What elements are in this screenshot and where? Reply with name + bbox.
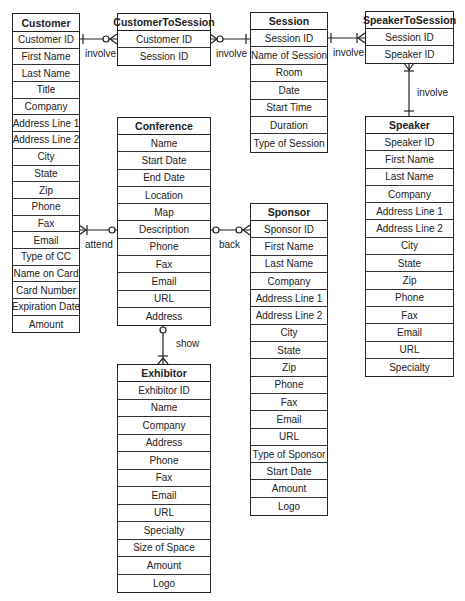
entity-field: Type of CC <box>13 249 79 266</box>
entity-conference: ConferenceNameStart DateEnd DateLocation… <box>117 117 211 326</box>
entity-title: Conference <box>118 118 210 135</box>
entity-field: Last Name <box>251 256 327 273</box>
entity-title: CustomerToSession <box>118 14 210 31</box>
entity-field: Logo <box>251 498 327 515</box>
entity-field: Logo <box>118 575 210 593</box>
entity-field: Fax <box>13 216 79 233</box>
entity-field: Zip <box>13 182 79 199</box>
relationship-label-back: back <box>219 239 240 250</box>
entity-field: Address <box>118 308 210 325</box>
entity-field: Company <box>366 186 453 203</box>
entity-field: First Name <box>13 49 79 66</box>
entity-customer-to-session: CustomerToSessionCustomer IDSession ID <box>117 13 211 66</box>
entity-exhibitor: ExhibitorExhibitor IDNameCompanyAddressP… <box>117 364 211 593</box>
entity-field: Phone <box>13 199 79 216</box>
entity-field: Zip <box>366 272 453 289</box>
entity-field: Map <box>118 204 210 221</box>
entity-field: Zip <box>251 359 327 376</box>
entity-customer: CustomerCustomer IDFirst NameLast NameTi… <box>12 13 80 333</box>
entity-field: Session ID <box>251 30 327 47</box>
entity-field: Amount <box>118 557 210 575</box>
entity-field: Address Line 1 <box>13 115 79 132</box>
entity-field: Session ID <box>366 29 453 46</box>
entity-field: Exhibitor ID <box>118 382 210 400</box>
entity-field: Customer ID <box>118 31 210 48</box>
entity-field: Fax <box>366 307 453 324</box>
entity-field: URL <box>366 342 453 359</box>
entity-session: SessionSession IDName of SessionRoomDate… <box>250 12 328 153</box>
entity-field: Expiration Date <box>13 299 79 316</box>
entity-field: Address Line 1 <box>366 203 453 220</box>
relationship-label-session-speakertosession: involve <box>333 47 364 58</box>
entity-field: Name on Card <box>13 266 79 283</box>
entity-title: Sponsor <box>251 204 327 221</box>
entity-field: Specialty <box>118 522 210 540</box>
entity-field: Customer ID <box>13 32 79 49</box>
entity-field: Start Date <box>118 152 210 169</box>
entity-field: Email <box>118 273 210 290</box>
entity-field: Address Line 2 <box>251 307 327 324</box>
entity-field: City <box>251 325 327 342</box>
entity-speaker: SpeakerSpeaker IDFirst NameLast NameComp… <box>365 116 454 377</box>
entity-field: Start Date <box>251 463 327 480</box>
entity-field: Card Number <box>13 282 79 299</box>
entity-field: Name <box>118 400 210 418</box>
entity-field: URL <box>118 291 210 308</box>
relationship-label-speakertosession-speaker: involve <box>417 87 448 98</box>
relationship-label-show: show <box>176 338 199 349</box>
entity-field: Start Time <box>251 100 327 117</box>
entity-field: State <box>251 342 327 359</box>
entity-field: Type of Sponsor <box>251 446 327 463</box>
entity-field: Company <box>118 417 210 435</box>
entity-field: Speaker ID <box>366 134 453 151</box>
entity-field: Duration <box>251 117 327 134</box>
entity-field: First Name <box>366 151 453 168</box>
entity-field: Email <box>118 487 210 505</box>
entity-field: Date <box>251 82 327 99</box>
entity-field: City <box>366 238 453 255</box>
entity-field: Fax <box>251 394 327 411</box>
entity-field: Type of Session <box>251 134 327 151</box>
entity-field: State <box>366 255 453 272</box>
entity-title: Speaker <box>366 117 453 134</box>
entity-field: Title <box>13 82 79 99</box>
entity-field: URL <box>118 505 210 523</box>
entity-field: Phone <box>118 239 210 256</box>
entity-field: Amount <box>251 480 327 497</box>
entity-field: Last Name <box>366 169 453 186</box>
entity-field: Last Name <box>13 65 79 82</box>
entity-field: Fax <box>118 256 210 273</box>
entity-field: Email <box>13 232 79 249</box>
entity-field: Address Line 2 <box>366 220 453 237</box>
entity-field: End Date <box>118 170 210 187</box>
relationship-label-attend: attend <box>85 239 113 250</box>
entity-field: Sponsor ID <box>251 221 327 238</box>
entity-field: Name <box>118 135 210 152</box>
entity-field: State <box>13 166 79 183</box>
entity-field: First Name <box>251 238 327 255</box>
entity-field: Specialty <box>366 359 453 376</box>
entity-title: SpeakerToSession <box>366 12 453 29</box>
relationship-label-customer-customertosession: involve <box>85 48 116 59</box>
entity-field: Speaker ID <box>366 46 453 63</box>
entity-title: Customer <box>13 14 79 32</box>
entity-field: Email <box>366 324 453 341</box>
entity-speaker-to-session: SpeakerToSessionSession IDSpeaker ID <box>365 11 454 64</box>
entity-field: Size of Space <box>118 540 210 558</box>
relationship-label-customertosession-session: involve <box>216 48 247 59</box>
entity-field: Location <box>118 187 210 204</box>
entity-field: City <box>13 149 79 166</box>
entity-field: URL <box>251 429 327 446</box>
entity-field: Phone <box>366 290 453 307</box>
entity-field: Name of Session <box>251 47 327 64</box>
entity-field: Company <box>13 99 79 116</box>
entity-field: Company <box>251 273 327 290</box>
entity-field: Address Line 2 <box>13 132 79 149</box>
entity-field: Email <box>251 411 327 428</box>
entity-sponsor: SponsorSponsor IDFirst NameLast NameComp… <box>250 203 328 516</box>
entity-field: Phone <box>251 377 327 394</box>
entity-field: Fax <box>118 470 210 488</box>
entity-field: Address Line 1 <box>251 290 327 307</box>
entity-title: Exhibitor <box>118 365 210 382</box>
entity-field: Address <box>118 435 210 453</box>
